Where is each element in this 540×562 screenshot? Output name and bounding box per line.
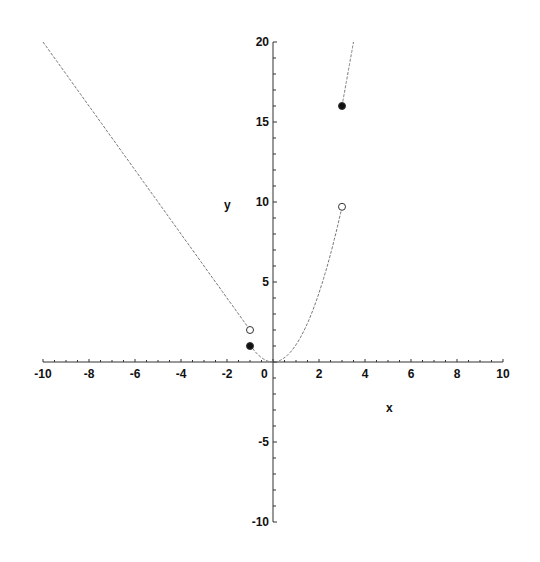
- y-tick-label: -10: [252, 515, 270, 529]
- open-point-marker: [247, 327, 254, 334]
- x-tick-label: 6: [408, 367, 415, 381]
- curves: [43, 42, 354, 362]
- markers: [247, 103, 346, 350]
- x-tick-label: 4: [362, 367, 369, 381]
- x-tick-label: -4: [176, 367, 187, 381]
- y-tick-label: 15: [256, 115, 270, 129]
- x-tick-label: 2: [316, 367, 323, 381]
- filled-point-marker: [339, 103, 346, 110]
- x-tick-label: 0: [261, 367, 268, 381]
- open-point-marker: [339, 203, 346, 210]
- x-tick-label: 10: [496, 367, 510, 381]
- y-tick-label: -5: [258, 435, 269, 449]
- x-tick-label: -2: [222, 367, 233, 381]
- piecewise-function-chart: -10-8-6-4-20246810-10-55101520 x y: [0, 0, 540, 562]
- x-tick-label: 8: [454, 367, 461, 381]
- y-tick-label: 5: [262, 275, 269, 289]
- piece-right-curve: [342, 42, 354, 106]
- piece-left-curve: [43, 42, 250, 330]
- y-tick-label: 10: [256, 195, 270, 209]
- filled-point-marker: [247, 343, 254, 350]
- x-axis-label: x: [386, 401, 393, 415]
- y-axis-label: y: [224, 198, 231, 212]
- x-tick-label: -10: [34, 367, 52, 381]
- x-tick-label: -6: [130, 367, 141, 381]
- axes: -10-8-6-4-20246810-10-55101520: [34, 35, 510, 529]
- y-tick-label: 20: [256, 35, 270, 49]
- x-tick-label: -8: [84, 367, 95, 381]
